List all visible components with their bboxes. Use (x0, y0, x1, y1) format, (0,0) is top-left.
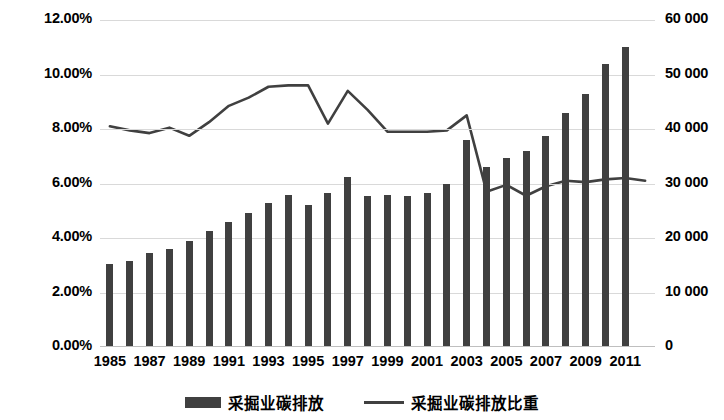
gridline (100, 238, 655, 239)
left-axis-tick: 10.00% (0, 65, 92, 81)
bar (602, 64, 609, 347)
right-axis-tick: 30 000 (665, 174, 708, 190)
x-axis-tick: 1995 (286, 353, 330, 369)
bar (404, 196, 411, 348)
x-axis-tick: 1999 (365, 353, 409, 369)
x-axis-tick: 1997 (326, 353, 370, 369)
x-axis-tick: 2005 (484, 353, 528, 369)
right-axis-tick: 60 000 (665, 10, 708, 26)
x-axis-tick: 2007 (524, 353, 568, 369)
x-axis-tick: 1993 (246, 353, 290, 369)
bar (285, 195, 292, 347)
bar (384, 195, 391, 347)
bar (225, 222, 232, 347)
bar (424, 193, 431, 347)
bar (305, 205, 312, 347)
bar (206, 231, 213, 347)
gridline (100, 129, 655, 130)
plot-area (100, 20, 655, 347)
x-axis-tick: 1985 (88, 353, 132, 369)
bar (542, 136, 549, 347)
legend-item-bar[interactable]: 采掘业碳排放 (185, 391, 324, 413)
legend-label-line: 采掘业碳排放比重 (411, 391, 539, 413)
x-axis-tick: 2011 (603, 353, 647, 369)
gridline (100, 184, 655, 185)
bar (364, 196, 371, 348)
left-axis-tick: 2.00% (0, 283, 92, 299)
right-axis-tick: 0 (665, 337, 673, 353)
legend-item-line[interactable]: 采掘业碳排放比重 (364, 391, 539, 413)
bar (582, 94, 589, 347)
x-axis-tick: 2001 (405, 353, 449, 369)
bar (324, 193, 331, 347)
bar (483, 167, 490, 347)
bar (166, 249, 173, 347)
axis-baseline (100, 346, 655, 347)
bar (265, 203, 272, 347)
bar-swatch-icon (185, 397, 221, 408)
x-axis-tick: 1991 (207, 353, 251, 369)
bar (106, 264, 113, 347)
bar (126, 261, 133, 347)
left-axis-tick: 6.00% (0, 174, 92, 190)
x-axis-tick: 2009 (564, 353, 608, 369)
x-axis-tick: 1989 (167, 353, 211, 369)
bar (463, 140, 470, 347)
left-axis-tick: 12.00% (0, 10, 92, 26)
left-axis-tick: 0.00% (0, 337, 92, 353)
bar (523, 151, 530, 347)
bar (562, 113, 569, 347)
legend-label-bar: 采掘业碳排放 (228, 391, 324, 413)
bar (443, 184, 450, 348)
gridline (100, 75, 655, 76)
bar (245, 213, 252, 347)
x-axis-tick: 2003 (445, 353, 489, 369)
bar (503, 158, 510, 347)
gridline (100, 20, 655, 21)
gridline (100, 293, 655, 294)
bar (146, 253, 153, 347)
chart-container: 0.00%2.00%4.00%6.00%8.00%10.00%12.00% 01… (0, 0, 724, 420)
right-axis-tick: 50 000 (665, 65, 708, 81)
right-axis-tick: 20 000 (665, 228, 708, 244)
x-axis-tick: 1987 (128, 353, 172, 369)
bar (622, 47, 629, 347)
line-swatch-icon (364, 401, 404, 404)
left-axis-tick: 8.00% (0, 119, 92, 135)
left-axis-tick: 4.00% (0, 228, 92, 244)
right-axis-tick: 10 000 (665, 283, 708, 299)
bar (186, 241, 193, 347)
right-axis-tick: 40 000 (665, 119, 708, 135)
bar (344, 177, 351, 347)
chart-legend: 采掘业碳排放 采掘业碳排放比重 (0, 388, 724, 416)
